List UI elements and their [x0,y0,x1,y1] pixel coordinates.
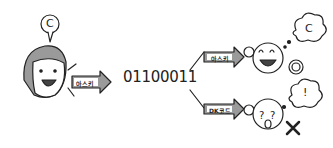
happy-receiver-face-icon [244,43,283,73]
girl-face-icon [24,46,76,98]
top-thought: C [305,22,313,35]
svg-text:?: ? [270,110,275,121]
sender-thought: C [46,17,54,30]
correct-circle-icon [289,60,303,74]
bottom-thought: ! [303,86,307,99]
binary-code: 01100011 [123,68,197,86]
dkcode-branch-label: DK코드 [209,106,231,115]
ascii-branch-label: 아스키 [211,54,229,63]
wrong-x-icon [287,122,299,134]
svg-text:?: ? [259,110,264,121]
sender-arrow-label: 아스키 [76,79,94,88]
